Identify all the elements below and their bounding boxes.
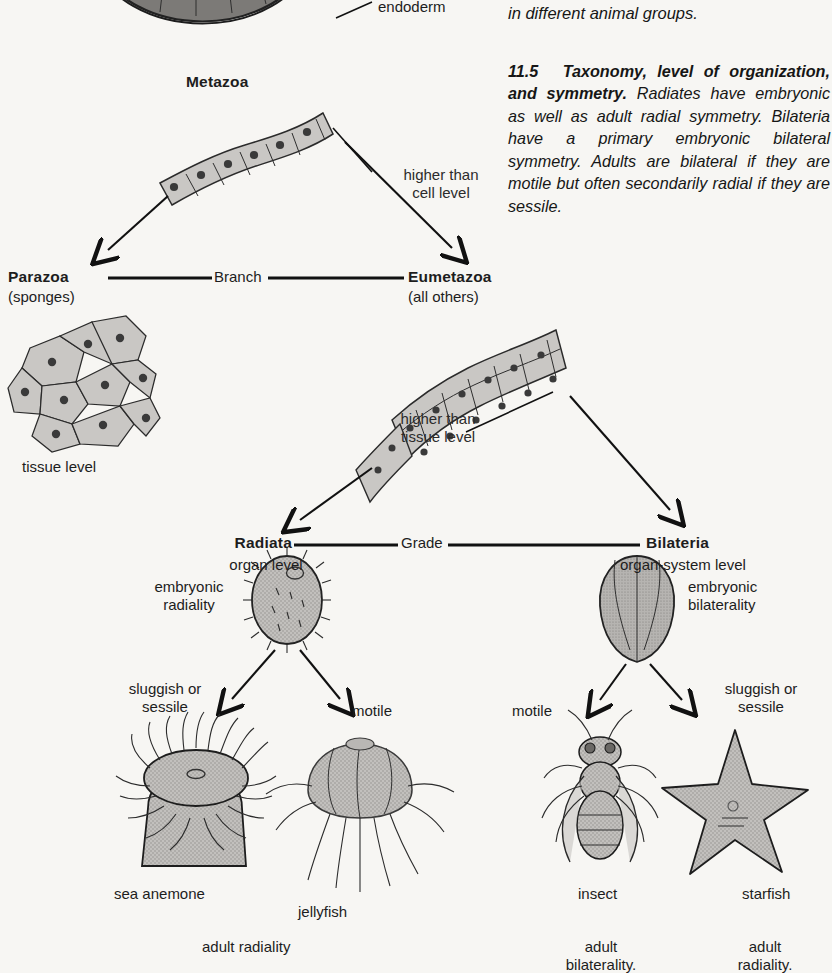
label-insect: insect	[578, 885, 617, 903]
label-embryonic-bilaterality: embryonic bilaterality	[688, 578, 757, 613]
label-jellyfish: jellyfish	[298, 903, 347, 921]
figure-number: 11.5	[508, 62, 538, 80]
insect-illustration	[542, 710, 658, 862]
label-starfish: starfish	[742, 885, 790, 903]
label-adult-bilaterality: adult bilaterality.	[556, 938, 646, 973]
arrow-eumetazoa-to-bilateria	[570, 396, 670, 510]
label-motile-left: motile	[352, 702, 392, 720]
figure-caption-text: Radiates have embryonic as well as adult…	[508, 84, 830, 214]
label-grade: Grade	[401, 534, 443, 552]
gastrula-partial-illustration	[95, 0, 310, 23]
label-endoderm: endoderm	[378, 0, 446, 16]
label-higher-than-tissue-level: higher than tissue level	[358, 410, 518, 445]
label-eumetazoa-sub: (all others)	[408, 288, 479, 306]
starfish-illustration	[662, 730, 808, 874]
label-sluggish-or-sessile-left: sluggish or sessile	[104, 680, 226, 715]
endoderm-leader-line	[336, 2, 372, 18]
label-eumetazoa: Eumetazoa	[408, 268, 492, 286]
label-bilateria-sub: organ-system level	[620, 556, 746, 574]
label-parazoa-sub: (sponges)	[8, 288, 75, 306]
label-motile-right: motile	[512, 702, 552, 720]
label-radiata: Radiata	[190, 534, 292, 552]
metazoa-cell-layer-illustration	[160, 113, 333, 205]
sponge-cell-cluster-illustration	[8, 316, 160, 452]
arrow-eumetazoa-to-radiata	[300, 468, 372, 520]
caption-continued-line: in different animal groups.	[508, 2, 828, 25]
arrow-radiata-to-motile	[300, 650, 340, 699]
label-adult-radiality-right: adult radiality.	[720, 938, 810, 973]
label-embryonic-radiality: embryonic radiality	[128, 578, 250, 613]
sea-anemone-illustration	[116, 712, 276, 866]
arrow-metazoa-to-parazoa	[108, 196, 168, 250]
label-parazoa: Parazoa	[8, 268, 69, 286]
label-radiata-sub: organ level	[206, 556, 326, 574]
label-higher-than-cell-level: higher than cell level	[366, 166, 516, 201]
arrow-bilateria-to-motile	[600, 664, 626, 700]
label-tissue-level: tissue level	[22, 458, 96, 476]
label-metazoa: Metazoa	[186, 73, 249, 91]
label-sluggish-or-sessile-right: sluggish or sessile	[700, 680, 822, 715]
arrow-bilateria-to-sessile	[650, 664, 682, 700]
figure-caption: 11.5 Taxonomy, level of organization, an…	[508, 60, 830, 217]
arrow-radiata-to-sessile	[232, 650, 275, 699]
label-adult-radiality-left: adult radiality	[202, 938, 290, 956]
label-bilateria: Bilateria	[646, 534, 709, 552]
jellyfish-illustration	[266, 738, 454, 892]
label-sea-anemone: sea anemone	[114, 885, 205, 903]
label-branch: Branch	[214, 268, 262, 286]
